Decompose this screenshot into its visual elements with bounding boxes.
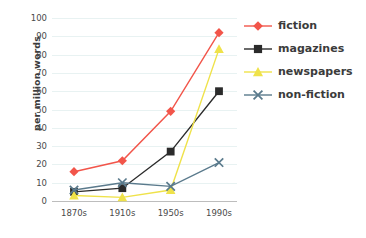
data-point-marker-diamond	[214, 28, 223, 37]
chart-legend: fictionmagazinesnewspapersnon-fiction	[243, 14, 363, 106]
data-point-marker-square	[215, 87, 223, 95]
line-chart-figure: per million words 0102030405060708090100…	[0, 0, 366, 238]
series-newspapers	[69, 44, 224, 201]
data-point-marker-square	[254, 44, 262, 52]
y-axis-tick-label: 0	[42, 196, 47, 206]
x-axis-tick-label: 1950s	[158, 208, 184, 218]
data-point-marker-x	[215, 158, 223, 166]
series-non-fiction	[70, 158, 223, 194]
data-point-marker-diamond	[69, 167, 78, 176]
legend-label: magazines	[278, 42, 344, 55]
legend-item-magazines[interactable]: magazines	[243, 37, 363, 60]
x-axis-tick-label: 1910s	[109, 208, 135, 218]
legend-item-non-fiction[interactable]: non-fiction	[243, 83, 363, 106]
x-axis-tick-label: 1990s	[206, 208, 232, 218]
y-axis-tick-label: 50	[36, 105, 47, 115]
y-axis-tick-label: 100	[31, 13, 47, 23]
y-axis-tick-label: 60	[36, 86, 47, 96]
legend-label: non-fiction	[278, 88, 345, 101]
y-axis-tick-label: 30	[36, 141, 47, 151]
data-point-marker-square	[167, 148, 175, 156]
gridline	[52, 201, 237, 202]
data-series-group	[52, 18, 237, 201]
legend-label: newspapers	[278, 65, 353, 78]
legend-swatch-diamond-icon	[243, 19, 273, 33]
y-axis-title: per million words	[31, 4, 42, 164]
data-point-marker-triangle	[214, 44, 224, 53]
legend-label: fiction	[278, 19, 317, 32]
series-line	[74, 49, 219, 197]
y-axis-tick-label: 80	[36, 50, 47, 60]
series-line	[74, 33, 219, 172]
legend-swatch-square-icon	[243, 42, 273, 56]
legend-swatch-x-icon	[243, 88, 273, 102]
legend-swatch-triangle-icon	[243, 65, 273, 79]
legend-item-fiction[interactable]: fiction	[243, 14, 363, 37]
y-axis-tick-label: 70	[36, 68, 47, 78]
data-point-marker-diamond	[253, 21, 263, 31]
y-axis-tick-label: 10	[36, 178, 47, 188]
legend-item-newspapers[interactable]: newspapers	[243, 60, 363, 83]
x-axis-tick-label: 1870s	[61, 208, 87, 218]
y-axis-tick-label: 90	[36, 31, 47, 41]
y-axis-tick-label: 20	[36, 159, 47, 169]
y-axis-tick-label: 40	[36, 123, 47, 133]
series-line	[74, 91, 219, 192]
plot-area: 0102030405060708090100 1870s1910s1950s19…	[52, 18, 237, 201]
